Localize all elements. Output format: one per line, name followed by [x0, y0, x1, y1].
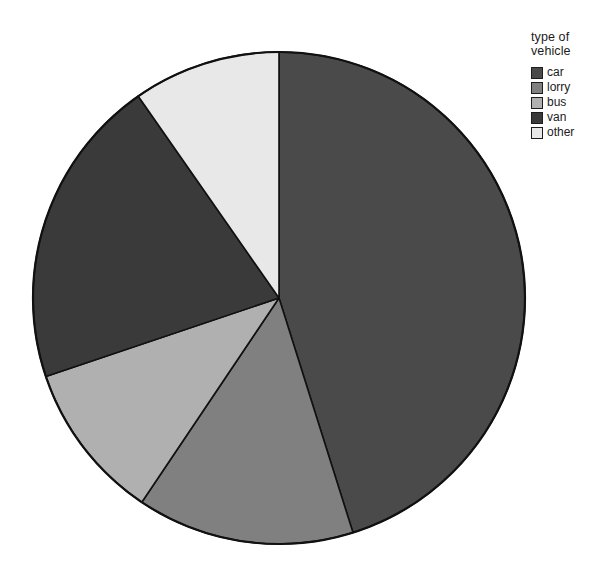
legend-item-other[interactable]: other — [531, 125, 615, 140]
legend-item-bus[interactable]: bus — [531, 95, 615, 110]
pie-chart-figure: type of vehicle carlorrybusvanother — [0, 0, 615, 584]
legend-swatch-other — [531, 127, 543, 139]
legend-item-lorry[interactable]: lorry — [531, 80, 615, 95]
legend-swatch-van — [531, 112, 543, 124]
legend-item-car[interactable]: car — [531, 65, 615, 80]
legend-title: type of vehicle — [531, 30, 615, 58]
pie-chart-canvas — [0, 0, 615, 584]
legend-item-van[interactable]: van — [531, 110, 615, 125]
legend-label-bus: bus — [547, 96, 566, 109]
legend: type of vehicle carlorrybusvanother — [531, 30, 615, 140]
legend-swatch-car — [531, 67, 543, 79]
legend-swatch-lorry — [531, 82, 543, 94]
legend-label-car: car — [547, 66, 564, 79]
legend-label-van: van — [547, 111, 566, 124]
legend-items: carlorrybusvanother — [531, 65, 615, 140]
legend-label-lorry: lorry — [547, 81, 570, 94]
legend-swatch-bus — [531, 97, 543, 109]
legend-label-other: other — [547, 126, 574, 139]
pie-svg — [0, 0, 615, 584]
pie-slice-group — [33, 52, 525, 544]
